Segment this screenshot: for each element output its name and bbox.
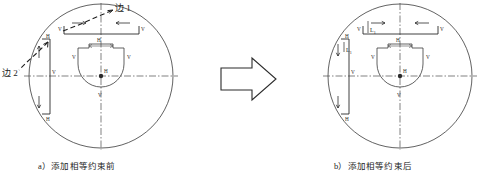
top-left-arrow-b: [371, 21, 385, 24]
top-right-arrow-b: [415, 21, 429, 24]
caption-panel-a: a）添加相等约束前: [38, 159, 116, 171]
left-top-arrow-a: [37, 46, 40, 58]
center-point-b: [398, 74, 402, 78]
center-point-a: [99, 74, 103, 78]
marker-center-h-b: H: [403, 68, 407, 74]
marker-top-axis-h-b: H: [396, 37, 400, 43]
figure-root: V V H H H V V V H V: [0, 0, 480, 178]
caption-panel-b: b）添加相等约束后: [334, 159, 412, 171]
marker-top-bracket-right-v-b: V: [440, 26, 444, 32]
top-right-arrow-a: [116, 21, 130, 24]
marker-inner-right-v-a: V: [127, 54, 131, 60]
marker-left-bracket-bottom-h-a: H: [46, 116, 50, 122]
marker-left-bracket-top-h-a: H: [46, 33, 50, 39]
marker-left-bracket-bottom-h-b: H: [345, 116, 349, 122]
marker-top-bracket-left-v-b: V: [357, 26, 361, 32]
dimension-top-label-b: L1: [370, 27, 376, 35]
edge-1-leader-a: [63, 10, 113, 31]
marker-top-axis-h-a: H: [97, 37, 101, 43]
transition-arrow: [221, 58, 276, 100]
dimension-top-label-sub: 1: [374, 30, 376, 35]
left-bottom-arrow-b: [336, 96, 339, 108]
marker-left-axis-v-b: V: [351, 69, 355, 75]
panel-b: V V H H H V V V H V L1 L1: [323, 3, 477, 150]
marker-inner-left-v-b: V: [371, 54, 375, 60]
dimension-left-label-b: L1: [346, 47, 352, 55]
left-bottom-arrow-a: [37, 96, 40, 108]
transition-arrow-shape: [221, 58, 276, 100]
edge-2-leader-a: [19, 42, 48, 70]
edge-2-label: 边 2: [2, 68, 18, 78]
left-bracket-a: [42, 39, 50, 114]
marker-center-h-a: H: [104, 68, 108, 74]
marker-inner-bottom-v-a: V: [98, 92, 102, 98]
panel-a: V V H H H V V V H V: [19, 3, 178, 150]
marker-left-bracket-top-h-b: H: [345, 33, 349, 39]
edge-1-label: 边 1: [115, 3, 131, 13]
top-bracket-a: [64, 26, 139, 34]
left-top-arrow-b: [336, 44, 339, 56]
marker-top-bracket-left-v-a: V: [58, 26, 62, 32]
marker-top-bracket-right-v-a: V: [141, 26, 145, 32]
marker-inner-left-v-a: V: [72, 54, 76, 60]
marker-inner-bottom-v-b: V: [397, 92, 401, 98]
marker-left-axis-v-a: V: [52, 69, 56, 75]
dimension-left-label-sub: 1: [350, 50, 352, 55]
constraint-diagram-svg: V V H H H V V V H V: [0, 0, 480, 178]
marker-inner-right-v-b: V: [426, 54, 430, 60]
